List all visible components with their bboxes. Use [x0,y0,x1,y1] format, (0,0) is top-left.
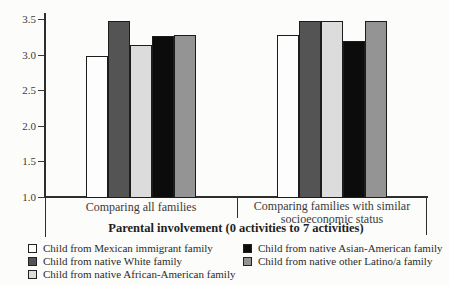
bar-group1-series2 [321,21,343,198]
legend-swatch [28,270,37,279]
legend-label: Child from Mexican immigrant family [43,242,213,255]
legend-item: Child from native other Latino/a family [243,255,443,268]
legend-label: Child from native other Latino/a family [258,255,432,268]
bar-group0-series4 [174,35,196,198]
category-label-all-families: Comparing all families [45,201,237,214]
legend: Child from Mexican immigrant familyChild… [0,241,449,286]
y-tick-mark [38,55,44,56]
y-tick-label: 3.0 [8,48,36,62]
legend-item: Child from native African-American famil… [28,268,235,281]
legend-item: Child from native Asian-American family [243,242,443,255]
bar-group1-series1 [299,21,321,198]
y-tick-mark [38,197,44,198]
legend-column-right: Child from native Asian-American familyC… [243,242,443,268]
y-tick-mark [38,126,44,127]
chart-plot-area: 1.01.52.02.53.03.5 Comparing all familie… [0,0,449,240]
x-axis-title: Parental involvement (0 activities to 7 … [45,221,427,236]
y-tick-label: 3.5 [8,12,36,26]
legend-label: Child from native White family [43,255,182,268]
bar-group1-series0 [277,35,299,198]
legend-label: Child from native African-American famil… [43,268,235,281]
legend-swatch [28,244,37,253]
legend-swatch [28,257,37,266]
y-tick-label: 2.5 [8,83,36,97]
y-axis-line [44,13,46,198]
bar-group0-series3 [152,36,174,198]
legend-label: Child from native Asian-American family [258,242,443,255]
legend-swatch [243,257,252,266]
bar-group0-series2 [130,45,152,198]
bar-group0-series0 [86,56,108,198]
y-tick-mark [38,161,44,162]
y-tick-label: 2.0 [8,119,36,133]
bar-group0-series1 [108,21,130,198]
legend-item: Child from native White family [28,255,235,268]
y-tick-label: 1.0 [8,190,36,204]
y-tick-label: 1.5 [8,154,36,168]
legend-item: Child from Mexican immigrant family [28,242,235,255]
y-tick-mark [38,19,44,20]
legend-column-left: Child from Mexican immigrant familyChild… [28,242,235,281]
legend-swatch [243,244,252,253]
y-tick-mark [38,90,44,91]
bar-group1-series4 [365,21,387,198]
figure: 1.01.52.02.53.03.5 Comparing all familie… [0,0,449,286]
bar-group1-series3 [343,41,365,198]
